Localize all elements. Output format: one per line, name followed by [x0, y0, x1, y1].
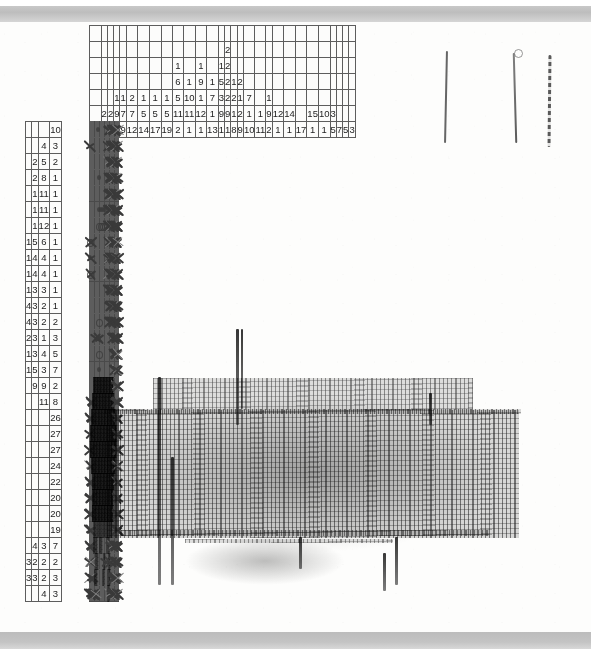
row-clue-cell[interactable]: 2	[50, 154, 62, 170]
column-clue-cell-empty[interactable]	[243, 42, 255, 58]
row-clue-cell[interactable]: 1	[50, 202, 62, 218]
column-clue-cell[interactable]: 1	[173, 58, 184, 74]
row-clue-cell[interactable]: 2	[50, 554, 62, 570]
column-clue-cell-empty[interactable]	[126, 74, 138, 90]
column-clue-cell[interactable]: 14	[284, 106, 296, 122]
grid-cell-crossed[interactable]	[118, 266, 119, 282]
row-clue-cell[interactable]: 5	[50, 346, 62, 362]
row-clue-cell[interactable]: 2	[38, 570, 50, 586]
row-clue-cell[interactable]: 3	[50, 138, 62, 154]
column-clue-cell-empty[interactable]	[284, 74, 296, 90]
grid-cell-crossed[interactable]	[118, 346, 119, 362]
column-clue-cell[interactable]: 1	[149, 90, 161, 106]
row-clue-cell[interactable]: 10	[50, 122, 62, 138]
column-clue-cell-empty[interactable]	[284, 58, 296, 74]
row-clue-cell[interactable]: 1	[50, 282, 62, 298]
column-clue-cell[interactable]: 5	[173, 90, 184, 106]
row-clue-cell[interactable]: 2	[38, 314, 50, 330]
column-clue-cell[interactable]: 1	[195, 90, 207, 106]
grid-cell-crossed[interactable]	[118, 522, 119, 538]
column-clue-cell-empty[interactable]	[138, 74, 150, 90]
row-clue-cell[interactable]: 27	[50, 426, 62, 442]
column-clue-cell-empty[interactable]	[295, 58, 307, 74]
row-clue-cell[interactable]: 1	[50, 266, 62, 282]
column-clue-cell[interactable]: 11	[173, 106, 184, 122]
row-clue-cell-empty[interactable]	[38, 442, 50, 458]
row-clue-cell[interactable]: 2	[50, 378, 62, 394]
row-clue-cell[interactable]: 4	[38, 266, 50, 282]
row-clue-cell[interactable]: 1	[50, 186, 62, 202]
column-clue-cell-empty[interactable]	[255, 90, 266, 106]
grid-cell-crossed[interactable]	[118, 234, 119, 250]
column-clue-cell-empty[interactable]	[173, 26, 184, 42]
row-clue-cell-empty[interactable]	[38, 490, 50, 506]
column-clue-cell-empty[interactable]	[272, 26, 284, 42]
column-clue-cell-empty[interactable]	[183, 26, 195, 42]
row-clue-cell[interactable]: 3	[50, 330, 62, 346]
column-clue-cell-empty[interactable]	[138, 58, 150, 74]
column-clue-cell-empty[interactable]	[161, 42, 173, 58]
column-clue-cell[interactable]: 7	[207, 90, 219, 106]
column-clue-cell-empty[interactable]	[195, 42, 207, 58]
grid-cell-crossed[interactable]	[118, 474, 119, 490]
row-clue-cell-empty[interactable]	[38, 458, 50, 474]
column-clue-cell[interactable]: 12	[126, 122, 138, 138]
grid-cell-crossed[interactable]	[118, 490, 119, 506]
row-clue-cell[interactable]: 12	[38, 218, 50, 234]
column-clue-cell-empty[interactable]	[173, 42, 184, 58]
row-clue-cell[interactable]: 8	[38, 170, 50, 186]
row-clue-cell-empty[interactable]	[38, 426, 50, 442]
row-clue-cell[interactable]: 1	[50, 250, 62, 266]
column-clue-cell-empty[interactable]	[349, 74, 355, 90]
column-clue-cell[interactable]: 3	[349, 122, 355, 138]
column-clue-cell[interactable]: 1	[272, 122, 284, 138]
column-clue-cell[interactable]: 1	[183, 122, 195, 138]
column-clue-cell[interactable]: 10	[318, 106, 330, 122]
row-clue-cell[interactable]: 4	[38, 346, 50, 362]
column-clue-cell[interactable]: 15	[307, 106, 319, 122]
row-clue-cell-empty[interactable]	[38, 506, 50, 522]
grid-cell-crossed[interactable]	[118, 154, 119, 170]
row-clue-cell[interactable]: 5	[38, 154, 50, 170]
column-clue-cell-empty[interactable]	[272, 42, 284, 58]
column-clue-cell-empty[interactable]	[295, 42, 307, 58]
grid-cell-crossed[interactable]	[118, 538, 119, 554]
row-clue-cell[interactable]: 26	[50, 410, 62, 426]
column-clue-cell[interactable]: 13	[207, 122, 219, 138]
column-clue-cell[interactable]: 1	[318, 122, 330, 138]
column-clue-cell[interactable]: 10	[183, 90, 195, 106]
column-clue-cell[interactable]: 14	[138, 122, 150, 138]
column-clue-cell-empty[interactable]	[284, 42, 296, 58]
row-clue-cell[interactable]: 11	[38, 394, 50, 410]
row-clue-cell[interactable]: 2	[38, 298, 50, 314]
column-clue-cell-empty[interactable]	[349, 26, 355, 42]
column-clue-cell-empty[interactable]	[349, 58, 355, 74]
row-clue-cell[interactable]: 6	[38, 234, 50, 250]
column-clue-cell-empty[interactable]	[243, 74, 255, 90]
grid-cell-crossed[interactable]	[118, 138, 119, 154]
grid-cell-crossed[interactable]	[118, 170, 119, 186]
grid-cell-crossed[interactable]	[118, 282, 119, 298]
column-clue-cell-empty[interactable]	[295, 26, 307, 42]
row-clue-cell[interactable]: 4	[38, 586, 50, 602]
column-clue-cell-empty[interactable]	[284, 26, 296, 42]
column-clue-cell-empty[interactable]	[349, 42, 355, 58]
column-clue-cell[interactable]: 7	[243, 90, 255, 106]
column-clue-cell-empty[interactable]	[90, 90, 102, 106]
column-clue-cell-empty[interactable]	[195, 26, 207, 42]
column-clue-cell[interactable]: 1	[255, 106, 266, 122]
column-clue-cell[interactable]: 1	[284, 122, 296, 138]
column-clue-cell[interactable]: 7	[126, 106, 138, 122]
row-clue-cell[interactable]: 20	[50, 490, 62, 506]
column-clue-cell-empty[interactable]	[318, 58, 330, 74]
row-clue-cell[interactable]: 27	[50, 442, 62, 458]
column-clue-cell[interactable]: 5	[149, 106, 161, 122]
row-clue-cell[interactable]: 24	[50, 458, 62, 474]
column-clue-cell[interactable]: 11	[183, 106, 195, 122]
column-clue-cell[interactable]: 1	[207, 74, 219, 90]
column-clue-cell-empty[interactable]	[318, 90, 330, 106]
column-clue-cell[interactable]: 1	[243, 106, 255, 122]
row-clue-cell[interactable]: 8	[50, 394, 62, 410]
column-clue-cell-empty[interactable]	[284, 90, 296, 106]
grid-cell-crossed[interactable]	[118, 442, 119, 458]
